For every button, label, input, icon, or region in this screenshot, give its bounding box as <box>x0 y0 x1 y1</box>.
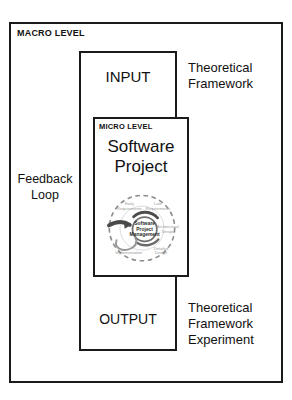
cycle-node-label: Architectural Design <box>157 224 179 234</box>
software-process-cycle-diagram: Early Requirements Late Requirements Arc… <box>104 188 180 272</box>
svg-text:Design: Design <box>162 229 174 234</box>
diagram-canvas: · · · · · · MACRO LEVEL Feedback Loop Th… <box>0 0 292 400</box>
feedback-loop-label: Feedback Loop <box>12 172 78 203</box>
svg-text:Implementation: Implementation <box>115 250 142 255</box>
theoretical-framework-label: Theoretical Framework <box>188 60 286 92</box>
scan-artifact-text: · · · · · · <box>0 0 49 4</box>
output-label: OUTPUT <box>79 312 177 328</box>
svg-text:Design: Design <box>155 250 167 255</box>
cycle-node-label: Late Requirements <box>146 201 171 211</box>
svg-text:Software: Software <box>134 221 155 226</box>
svg-text:Management: Management <box>130 232 160 237</box>
software-project-title: Software Project <box>93 137 189 176</box>
input-label: INPUT <box>79 69 177 86</box>
svg-text:Project: Project <box>136 227 153 232</box>
svg-text:Requirements: Requirements <box>117 206 142 211</box>
cycle-node-label: Detailed Design <box>154 246 169 256</box>
micro-level-label: MICRO LEVEL <box>99 122 152 131</box>
scan-artifact-sliver: · · · · · · <box>0 0 292 9</box>
theoretical-framework-experiment-label: Theoretical Framework Experiment <box>188 300 290 348</box>
svg-text:Requirements: Requirements <box>146 206 171 211</box>
macro-level-label: MACRO LEVEL <box>17 28 85 38</box>
cycle-node-label: Implementation <box>115 250 142 255</box>
